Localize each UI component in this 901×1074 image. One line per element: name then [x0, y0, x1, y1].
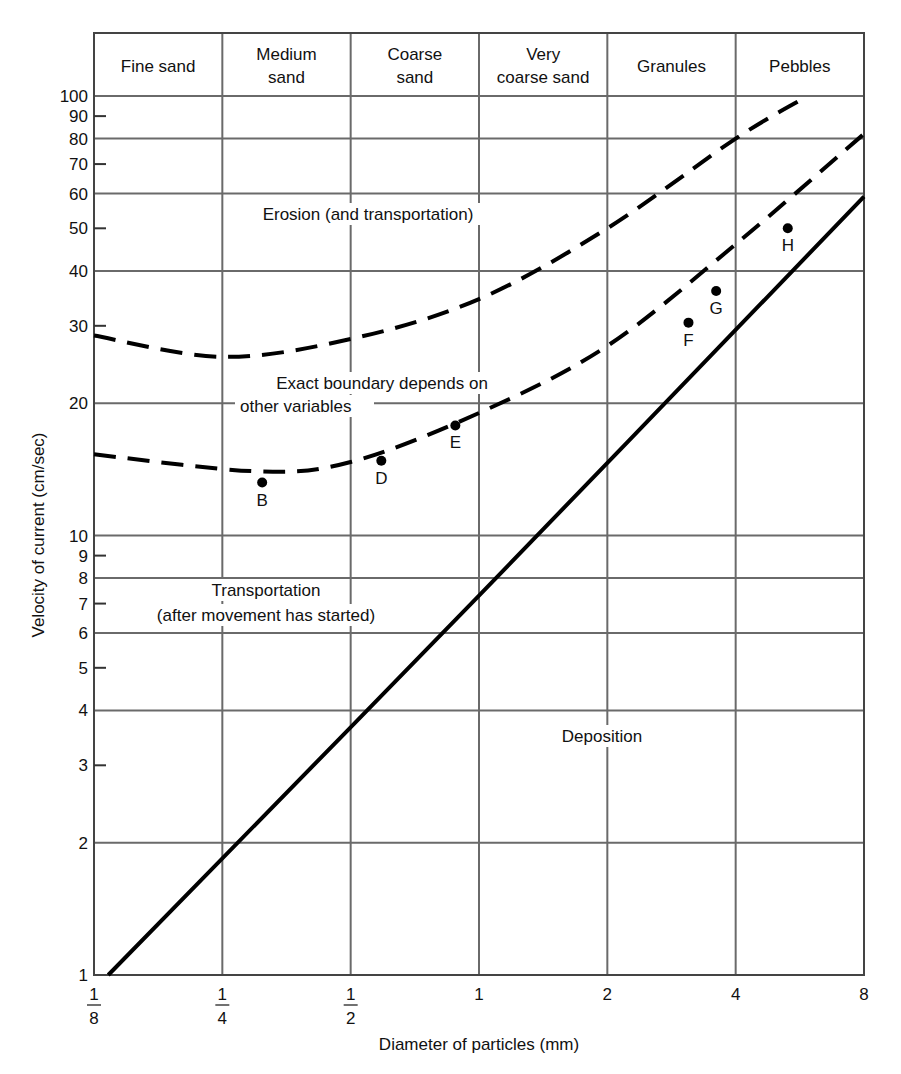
- y-tick-label: 100: [60, 87, 88, 106]
- size-class-text: Medium: [256, 45, 316, 64]
- y-tick-label: 80: [69, 130, 88, 149]
- data-point-e: E: [450, 420, 461, 452]
- y-tick-label: 5: [79, 659, 88, 678]
- size-class-text: Coarse: [387, 45, 442, 64]
- region-annotations: Erosion (and transportation)Exact bounda…: [141, 203, 650, 747]
- x-tick-label: 2: [603, 985, 612, 1004]
- size-class-label: Verycoarse sand: [497, 45, 590, 87]
- point-marker: [450, 420, 460, 430]
- size-class-label: Fine sand: [121, 57, 196, 76]
- annotation-text: Exact boundary depends on: [276, 374, 488, 393]
- point-marker: [783, 223, 793, 233]
- point-marker: [376, 456, 386, 466]
- y-axis-label: Velocity of current (cm/sec): [29, 432, 48, 637]
- data-point-b: B: [256, 478, 267, 510]
- annotation-text: Erosion (and transportation): [263, 205, 474, 224]
- y-tick-label: 90: [69, 107, 88, 126]
- data-point-d: D: [375, 456, 387, 488]
- y-tick-label: 2: [79, 834, 88, 853]
- annotation-text: other variables: [240, 397, 352, 416]
- point-marker: [711, 286, 721, 296]
- erosion-dashed-curve: [94, 96, 808, 357]
- size-class-label: Mediumsand: [256, 45, 316, 87]
- gridlines: [94, 33, 864, 975]
- point-marker: [257, 478, 267, 488]
- x-tick-denominator: 4: [218, 1009, 227, 1028]
- size-class-header: Fine sandMediumsandCoarsesandVerycoarse …: [121, 45, 831, 87]
- y-tick-label: 60: [69, 185, 88, 204]
- x-tick-label: 1: [474, 985, 483, 1004]
- annotation-text: (after movement has started): [157, 606, 375, 625]
- size-class-text: Pebbles: [769, 57, 830, 76]
- hjulstrom-chart: Fine sandMediumsandCoarsesandVerycoarse …: [0, 0, 901, 1074]
- y-tick-label: 20: [69, 394, 88, 413]
- size-class-text: sand: [396, 68, 433, 87]
- point-label: F: [683, 331, 693, 350]
- annotation-text: Transportation: [212, 581, 321, 600]
- x-axis-ticks: 1814121248: [87, 985, 869, 1028]
- x-tick-numerator: 1: [346, 985, 355, 1004]
- size-class-text: sand: [268, 68, 305, 87]
- y-tick-label: 7: [79, 595, 88, 614]
- y-tick-label: 30: [69, 317, 88, 336]
- x-axis-label: Diameter of particles (mm): [379, 1035, 579, 1054]
- size-class-text: Granules: [637, 57, 706, 76]
- y-tick-label: 6: [79, 624, 88, 643]
- size-class-text: coarse sand: [497, 68, 590, 87]
- x-tick-numerator: 1: [89, 985, 98, 1004]
- y-tick-label: 9: [79, 547, 88, 566]
- x-tick-label: 4: [731, 985, 740, 1004]
- y-tick-label: 10: [69, 527, 88, 546]
- y-tick-label: 8: [79, 569, 88, 588]
- point-label: G: [710, 299, 723, 318]
- x-tick-numerator: 1: [218, 985, 227, 1004]
- y-tick-label: 1: [79, 966, 88, 985]
- data-point-g: G: [710, 286, 723, 318]
- size-class-label: Granules: [637, 57, 706, 76]
- x-tick-label: 8: [859, 985, 868, 1004]
- size-class-label: Coarsesand: [387, 45, 442, 87]
- y-tick-label: 40: [69, 262, 88, 281]
- point-marker: [683, 318, 693, 328]
- y-tick-label: 4: [79, 701, 88, 720]
- point-label: D: [375, 469, 387, 488]
- data-point-f: F: [683, 318, 693, 350]
- size-class-text: Fine sand: [121, 57, 196, 76]
- size-class-label: Pebbles: [769, 57, 830, 76]
- data-point-h: H: [782, 223, 794, 255]
- y-tick-label: 70: [69, 155, 88, 174]
- x-tick-denominator: 8: [89, 1009, 98, 1028]
- y-tick-label: 3: [79, 756, 88, 775]
- point-label: H: [782, 236, 794, 255]
- point-label: B: [256, 491, 267, 510]
- size-class-text: Very: [526, 45, 561, 64]
- point-label: E: [450, 433, 461, 452]
- annotation-text: Deposition: [562, 727, 642, 746]
- x-tick-denominator: 2: [346, 1009, 355, 1028]
- y-tick-label: 50: [69, 219, 88, 238]
